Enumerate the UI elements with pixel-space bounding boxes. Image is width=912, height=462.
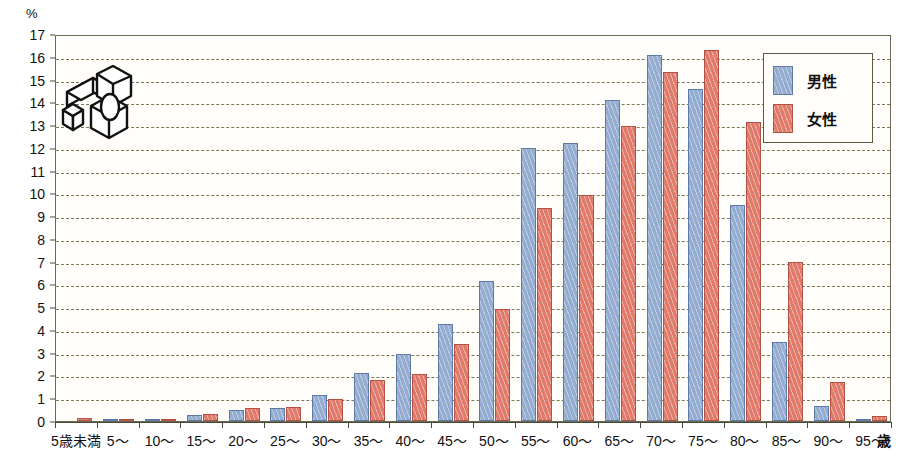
- bar-male: [730, 205, 745, 421]
- legend-label-male: 男性: [807, 70, 837, 91]
- bar-male: [647, 55, 662, 422]
- bar-group: [140, 36, 182, 421]
- bar-male: [103, 419, 118, 421]
- x-axis-tick-label: 25〜: [270, 430, 300, 450]
- bar-female: [830, 382, 845, 421]
- x-axis-tick-label: 90〜: [814, 430, 844, 450]
- y-axis-tick-label: 10: [29, 186, 45, 202]
- bar-female: [704, 50, 719, 421]
- bar-male: [354, 373, 369, 421]
- y-axis-tick-label: 13: [29, 118, 45, 134]
- x-axis-tick-label: 40〜: [396, 430, 426, 450]
- x-axis-tick: [306, 422, 307, 428]
- legend-swatch-female-icon: [773, 104, 793, 133]
- legend-swatch-male-icon: [773, 66, 793, 95]
- bar-female: [119, 419, 134, 421]
- bar-group: [98, 36, 140, 421]
- y-axis-tick-label: 9: [37, 209, 45, 225]
- legend: 男性 女性: [763, 53, 873, 143]
- bar-female: [454, 344, 469, 421]
- bar-female: [286, 407, 301, 421]
- y-axis-tick-label: 11: [30, 164, 45, 180]
- bar-group: [56, 36, 98, 421]
- y-axis-tick-label: 0: [37, 414, 45, 430]
- x-axis-tick: [97, 422, 98, 428]
- bar-male: [814, 406, 829, 421]
- x-axis-tick: [557, 422, 558, 428]
- x-axis-tick: [682, 422, 683, 428]
- bar-male: [312, 395, 327, 421]
- bar-group: [181, 36, 223, 421]
- y-axis-tick-label: 5: [37, 300, 45, 316]
- x-axis-tick: [180, 422, 181, 428]
- bar-group: [432, 36, 474, 421]
- bar-female: [621, 126, 636, 421]
- y-axis-tick-label: 6: [37, 277, 45, 293]
- x-axis-tick-label: 5〜: [107, 430, 129, 450]
- bar-female: [537, 208, 552, 421]
- y-axis-tick-label: 16: [29, 50, 45, 66]
- legend-item-female: 女性: [773, 104, 837, 133]
- bar-female: [872, 416, 887, 421]
- bar-female: [663, 72, 678, 421]
- bar-group: [390, 36, 432, 421]
- y-axis-tick-label: 17: [29, 27, 45, 43]
- bar-female: [579, 195, 594, 422]
- x-axis-tick: [389, 422, 390, 428]
- bar-male: [772, 342, 787, 421]
- bar-male: [229, 410, 244, 421]
- legend-label-female: 女性: [807, 108, 837, 129]
- x-axis-tick-label: 55〜: [521, 430, 551, 450]
- x-axis-tick-label: 85〜: [772, 430, 802, 450]
- y-axis-labels: 01234567891011121314151617: [0, 0, 55, 462]
- x-axis-tick-label: 50〜: [479, 430, 509, 450]
- bar-male: [521, 148, 536, 421]
- legend-item-male: 男性: [773, 66, 837, 95]
- bar-male: [563, 143, 578, 421]
- x-axis-tick-label: 45〜: [437, 430, 467, 450]
- y-axis-tick-label: 2: [37, 368, 45, 384]
- x-axis-tick-label: 20〜: [228, 430, 258, 450]
- y-axis-tick-label: 8: [37, 232, 45, 248]
- x-axis-tick-label: 75〜: [688, 430, 718, 450]
- bar-male: [145, 419, 160, 421]
- x-axis-tick-label: 95〜: [855, 430, 885, 450]
- bar-female: [746, 122, 761, 421]
- bar-group: [641, 36, 683, 421]
- x-axis-tick: [264, 422, 265, 428]
- x-axis-tick: [222, 422, 223, 428]
- y-axis-tick-label: 3: [37, 346, 45, 362]
- bar-chart: % 01234567891011121314151617 歳 男性 女性: [0, 0, 912, 462]
- bar-male: [438, 324, 453, 421]
- x-axis-tick: [55, 422, 56, 428]
- x-axis-tick: [891, 422, 892, 428]
- bar-group: [725, 36, 767, 421]
- x-axis-tick-label: 65〜: [605, 430, 635, 450]
- y-axis-tick-label: 1: [37, 391, 45, 407]
- bar-female: [245, 408, 260, 421]
- bar-female: [203, 414, 218, 421]
- x-axis-tick: [807, 422, 808, 428]
- y-axis-tick-label: 15: [29, 73, 45, 89]
- y-axis-tick-label: 7: [37, 255, 45, 271]
- x-axis-tick: [473, 422, 474, 428]
- bar-female: [495, 309, 510, 421]
- bar-female: [161, 419, 176, 421]
- bar-male: [605, 100, 620, 421]
- bar-group: [223, 36, 265, 421]
- bar-male: [270, 408, 285, 421]
- x-axis-tick-label: 10〜: [145, 430, 175, 450]
- bar-male: [688, 89, 703, 421]
- x-axis-tick-label: 80〜: [730, 430, 760, 450]
- x-axis-tick-label: 60〜: [563, 430, 593, 450]
- bar-group: [558, 36, 600, 421]
- bar-male: [187, 415, 202, 421]
- bar-group: [265, 36, 307, 421]
- bar-female: [370, 380, 385, 421]
- bar-female: [77, 418, 92, 421]
- x-axis-tick-label: 5歳未満: [51, 430, 101, 450]
- x-axis-tick: [515, 422, 516, 428]
- y-axis-tick-label: 4: [37, 323, 45, 339]
- x-axis-tick: [598, 422, 599, 428]
- x-axis-tick-label: 30〜: [312, 430, 342, 450]
